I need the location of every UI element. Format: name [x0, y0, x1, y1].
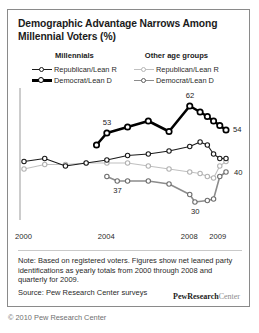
data-point-marker — [211, 176, 215, 180]
data-point-marker — [198, 140, 202, 144]
chart-plot-area: 536254373040 — [18, 88, 242, 220]
data-point-marker — [223, 127, 228, 132]
series-millennials-democrat-lean-d — [94, 103, 229, 147]
data-point-marker — [167, 149, 171, 153]
legend-item-label: Democrat/Lean D — [156, 76, 214, 85]
legend-group-other-age-groups: Other age groups Republican/Lean R Democ… — [134, 51, 219, 86]
data-point-marker — [84, 161, 88, 165]
data-point-marker — [224, 170, 228, 174]
data-point-marker — [205, 174, 209, 178]
data-label-30: 30 — [191, 207, 199, 216]
chart-card: Demographic Advantage Narrows Among Mill… — [7, 9, 250, 307]
legend-item-millennials-democrat[interactable]: Democrat/Lean D — [32, 75, 117, 86]
data-point-marker — [22, 159, 26, 163]
data-point-marker — [198, 171, 202, 175]
line-chart-svg — [18, 88, 242, 220]
copyright-text: © 2010 Pew Research Center — [8, 313, 106, 322]
x-tick-2009: 2009 — [209, 232, 226, 241]
legend-item-label: Republican/Lean R — [54, 65, 117, 74]
legend-line-marker-icon — [134, 65, 154, 74]
series-line — [97, 106, 226, 145]
data-point-marker — [211, 152, 215, 156]
legend-line-marker-icon — [32, 65, 52, 74]
data-point-marker — [187, 103, 192, 108]
data-point-marker — [197, 109, 202, 114]
pew-research-center-logo: PewResearchCenter — [173, 292, 240, 301]
legend-line-marker-icon — [32, 76, 52, 85]
x-tick-2004: 2004 — [98, 232, 115, 241]
data-label-62: 62 — [186, 91, 194, 100]
data-label-54: 54 — [233, 125, 241, 134]
data-point-marker — [166, 129, 171, 134]
data-point-marker — [205, 198, 209, 202]
chart-note: Note: Based on registered voters. Figure… — [18, 256, 238, 285]
data-point-marker — [104, 130, 109, 135]
data-point-marker — [218, 174, 222, 178]
data-point-marker — [224, 156, 228, 160]
legend-item-other-democrat[interactable]: Democrat/Lean D — [134, 75, 219, 86]
legend-item-other-republican[interactable]: Republican/Lean R — [134, 64, 219, 75]
data-label-37: 37 — [113, 186, 121, 195]
data-point-marker — [125, 179, 129, 183]
x-tick-2008: 2008 — [181, 232, 198, 241]
legend-item-label: Democrat/Lean D — [54, 76, 112, 85]
series-other-age-groups-republican-lean-r — [22, 159, 228, 180]
data-point-marker — [205, 114, 210, 119]
legend-group-millennials: Millennials Republican/Lean R Democrat/L… — [32, 51, 117, 86]
data-point-marker — [22, 167, 26, 171]
data-point-marker — [218, 164, 222, 168]
data-point-marker — [146, 152, 150, 156]
data-point-marker — [211, 118, 216, 123]
data-point-marker — [125, 161, 129, 165]
series-line — [24, 162, 226, 179]
data-point-marker — [146, 164, 150, 168]
chart-legend: Millennials Republican/Lean R Democrat/L… — [18, 51, 242, 84]
data-point-marker — [125, 153, 129, 157]
chart-title: Demographic Advantage Narrows Among Mill… — [18, 18, 242, 43]
data-label-53: 53 — [103, 118, 111, 127]
data-point-marker — [217, 123, 222, 128]
data-point-marker — [205, 143, 209, 147]
legend-group-heading: Millennials — [32, 51, 117, 60]
data-point-marker — [125, 124, 130, 129]
data-point-marker — [188, 170, 192, 174]
data-point-marker — [167, 167, 171, 171]
data-point-marker — [43, 162, 47, 166]
series-other-age-groups-democrat-lean-d — [105, 170, 229, 204]
data-point-marker — [105, 174, 109, 178]
data-point-marker — [115, 179, 119, 183]
legend-group-heading: Other age groups — [134, 51, 219, 60]
x-tick-2000: 2000 — [15, 232, 32, 241]
data-point-marker — [146, 118, 151, 123]
data-label-40: 40 — [234, 168, 242, 177]
logo-bold-text: PewResearch — [173, 292, 219, 301]
data-point-marker — [105, 158, 109, 162]
series-millennials-republican-lean-r — [22, 140, 228, 168]
data-point-marker — [218, 156, 222, 160]
data-point-marker — [188, 144, 192, 148]
data-point-marker — [146, 179, 150, 183]
legend-item-millennials-republican[interactable]: Republican/Lean R — [32, 64, 117, 75]
data-point-marker — [63, 164, 67, 168]
data-point-marker — [43, 156, 47, 160]
logo-light-text: Center — [219, 292, 240, 301]
axis-divider — [18, 250, 242, 251]
data-point-marker — [167, 182, 171, 186]
x-axis-tick-labels: 2000200420082009 — [18, 232, 242, 244]
data-point-marker — [193, 200, 197, 204]
data-point-marker — [211, 197, 215, 201]
data-point-marker — [94, 142, 99, 147]
data-point-marker — [188, 192, 192, 196]
legend-line-marker-icon — [134, 76, 154, 85]
legend-item-label: Republican/Lean R — [156, 65, 219, 74]
